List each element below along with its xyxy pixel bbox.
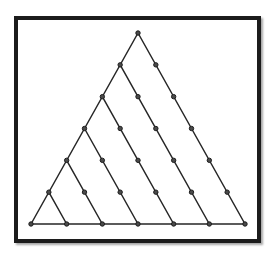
lattice-node-r4-c2: [118, 126, 122, 130]
lattice-node-r5-c4: [171, 158, 175, 162]
lattice-node-r7-c6: [207, 222, 211, 226]
lattice-node-r5-c3: [136, 158, 140, 162]
lattice-node-r7-c7: [243, 222, 247, 226]
lattice-node-r6-c2: [82, 190, 86, 194]
lattice-node-r6-c5: [189, 190, 193, 194]
lattice-node-r2-c1: [118, 63, 122, 67]
lattice-node-r3-c3: [171, 94, 175, 98]
lattice-node-r1-c1: [136, 31, 140, 35]
lattice-node-r5-c5: [207, 158, 211, 162]
lattice-node-r6-c3: [118, 190, 122, 194]
lattice-node-r6-c1: [47, 190, 51, 194]
lattice-node-r7-c2: [64, 222, 68, 226]
lattice-node-r2-c2: [154, 63, 158, 67]
lattice-node-r6-c6: [225, 190, 229, 194]
lattice-node-r7-c1: [29, 222, 33, 226]
lattice-node-r4-c4: [189, 126, 193, 130]
lattice-node-r4-c3: [154, 126, 158, 130]
lattice-nodes: [29, 31, 247, 226]
descending-edge-2: [120, 65, 209, 224]
lattice-node-r4-c1: [82, 126, 86, 130]
lattice-node-r7-c5: [171, 222, 175, 226]
lattice-node-r7-c3: [100, 222, 104, 226]
lattice-node-r7-c4: [136, 222, 140, 226]
lattice-node-r3-c1: [100, 94, 104, 98]
lattice-node-r5-c2: [100, 158, 104, 162]
triangular-lattice-diagram: [0, 0, 276, 256]
descending-edge-4: [85, 129, 139, 225]
descending-edge-6: [49, 192, 67, 224]
lattice-node-r5-c1: [64, 158, 68, 162]
lattice-node-r6-c4: [154, 190, 158, 194]
lattice-edges: [31, 33, 245, 224]
lattice-node-r3-c2: [136, 94, 140, 98]
